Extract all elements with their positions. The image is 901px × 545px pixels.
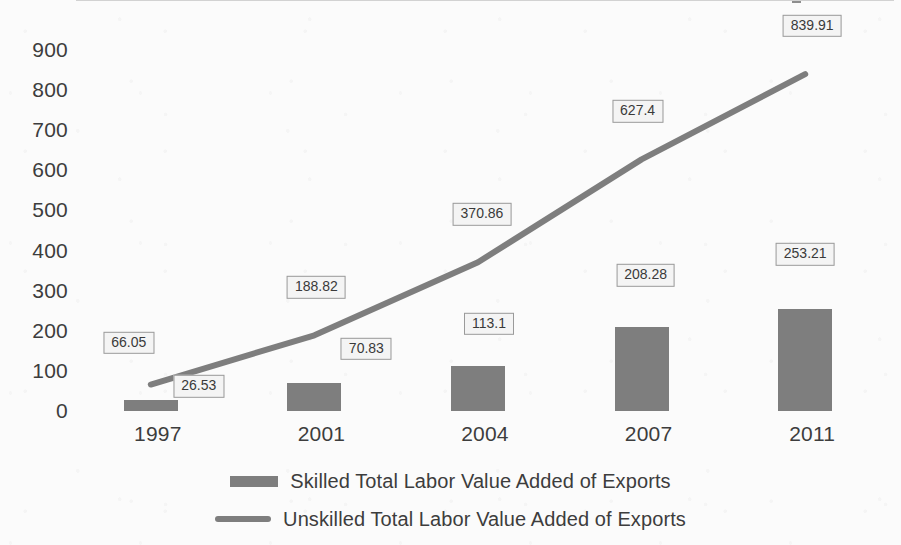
bar-data-label: 253.21	[776, 243, 835, 265]
bar-data-label: 113.1	[464, 312, 514, 334]
legend-line-swatch-icon	[215, 516, 271, 522]
bar-data-label: 26.53	[173, 375, 224, 397]
plot-area: 9008007006005004003002001000 19972001200…	[0, 0, 901, 460]
chart-legend: Skilled Total Labor Value Added of Expor…	[0, 462, 901, 538]
legend-item-skilled[interactable]: Skilled Total Labor Value Added of Expor…	[0, 462, 901, 500]
line-data-label: 839.91	[783, 15, 842, 37]
bar-data-label: 208.28	[616, 264, 675, 286]
legend-item-label: Unskilled Total Labor Value Added of Exp…	[283, 508, 686, 531]
legend-bar-swatch-icon	[230, 476, 278, 487]
line-path	[151, 74, 805, 384]
line-data-label: 66.05	[103, 331, 154, 353]
line-data-label: 370.86	[453, 203, 512, 225]
line-data-label: 188.82	[287, 276, 346, 298]
line-series-unskilled	[0, 0, 901, 460]
bar-data-label: 70.83	[341, 337, 392, 359]
chart-container: 9008007006005004003002001000 19972001200…	[0, 0, 901, 545]
legend-item-unskilled[interactable]: Unskilled Total Labor Value Added of Exp…	[0, 500, 901, 538]
legend-item-label: Skilled Total Labor Value Added of Expor…	[290, 470, 670, 493]
line-data-label: 627.4	[612, 100, 663, 122]
